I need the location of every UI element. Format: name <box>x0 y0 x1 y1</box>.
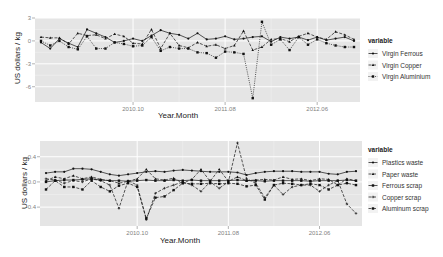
data-point <box>40 40 42 42</box>
legend-title: variable <box>368 146 393 153</box>
data-point <box>355 184 357 186</box>
x-tick-label: 2011.08 <box>214 106 236 112</box>
data-point <box>127 173 129 175</box>
data-point <box>242 38 244 40</box>
data-point <box>178 47 180 49</box>
bottom-x-axis: 2010.102011.082012.06 <box>126 226 331 236</box>
data-point <box>282 179 284 181</box>
data-point <box>63 171 65 173</box>
data-point <box>145 179 147 181</box>
data-point <box>72 168 74 170</box>
data-point <box>233 51 235 53</box>
data-point <box>233 38 235 40</box>
legend-item: Virgin Ferrous <box>368 49 423 58</box>
data-point <box>109 179 111 181</box>
data-point <box>163 179 165 181</box>
data-point <box>227 171 229 173</box>
legend-item: Copper scrap <box>368 193 421 202</box>
data-point <box>318 179 320 181</box>
data-point <box>334 44 336 46</box>
legend-label: Aluminum scrap <box>382 205 429 213</box>
x-tick-label: 2012.06 <box>309 230 331 236</box>
data-point <box>337 173 339 175</box>
data-point <box>282 170 284 172</box>
y-tick-label: 0 <box>28 38 32 44</box>
data-point <box>72 186 74 188</box>
data-point <box>309 183 311 185</box>
bottom-x-axis-title: Year.Month <box>160 236 200 245</box>
data-point <box>282 182 284 184</box>
data-point <box>178 34 180 36</box>
data-point <box>182 182 184 184</box>
data-point <box>236 179 238 181</box>
bottom-chart: 0.40.0-0.4 2010.102011.082012.06 Year.Mo… <box>20 141 429 245</box>
data-point <box>90 168 92 170</box>
legend-key-marker <box>372 52 374 54</box>
legend-title: variable <box>368 37 393 44</box>
top-y-axis: 30-3-6 <box>26 15 35 90</box>
data-point <box>136 172 138 174</box>
data-point <box>118 185 120 187</box>
y-tick-label: -6 <box>26 84 32 90</box>
data-point <box>187 47 189 49</box>
legend-label: Virgin Copper <box>382 62 422 70</box>
data-point <box>54 179 56 181</box>
data-point <box>316 38 318 40</box>
data-point <box>196 32 198 34</box>
data-point <box>81 188 83 190</box>
data-point <box>245 185 247 187</box>
data-point <box>344 46 346 48</box>
data-point <box>279 38 281 40</box>
data-point <box>154 179 156 181</box>
data-point <box>127 182 129 184</box>
data-point <box>169 46 171 48</box>
data-point <box>261 35 263 37</box>
data-point <box>63 179 65 181</box>
data-point <box>224 50 226 52</box>
data-point <box>288 38 290 40</box>
data-point <box>288 49 290 51</box>
data-point <box>123 40 125 42</box>
data-point <box>334 38 336 40</box>
legend-item: Paper waste <box>368 170 419 179</box>
data-point <box>309 171 311 173</box>
data-point <box>236 183 238 185</box>
legend-key-marker <box>372 75 374 77</box>
data-point <box>300 171 302 173</box>
data-point <box>49 47 51 49</box>
data-point <box>163 195 165 197</box>
data-point <box>346 182 348 184</box>
data-point <box>118 175 120 177</box>
legend-item: Ferrous scrap <box>368 181 422 190</box>
x-tick-label: 2010.10 <box>126 230 148 236</box>
data-point <box>67 46 69 48</box>
chart-figure: 30-3-6 2010.102011.082012.06 Year.Month … <box>0 0 443 257</box>
data-point <box>90 179 92 181</box>
data-point <box>100 171 102 173</box>
data-point <box>95 47 97 49</box>
data-point <box>355 179 357 181</box>
data-point <box>45 172 47 174</box>
top-x-axis-title: Year.Month <box>158 111 198 120</box>
data-point <box>291 183 293 185</box>
data-point <box>264 180 266 182</box>
data-point <box>136 179 138 181</box>
data-point <box>191 169 193 171</box>
legend-item: Plastics waste <box>368 158 424 167</box>
y-tick-label: -3 <box>26 61 32 67</box>
data-point <box>300 184 302 186</box>
top-plot-background <box>35 18 360 102</box>
data-point <box>224 35 226 37</box>
data-point <box>209 182 211 184</box>
legend-label: Paper waste <box>382 171 419 179</box>
data-point <box>200 183 202 185</box>
data-point <box>291 170 293 172</box>
legend-item: Virgin Aluminium <box>368 72 430 81</box>
data-point <box>191 179 193 181</box>
data-point <box>86 28 88 30</box>
data-point <box>58 40 60 42</box>
legend-item: Aluminum scrap <box>368 204 429 213</box>
data-point <box>200 179 202 181</box>
data-point <box>337 184 339 186</box>
data-point <box>173 169 175 171</box>
